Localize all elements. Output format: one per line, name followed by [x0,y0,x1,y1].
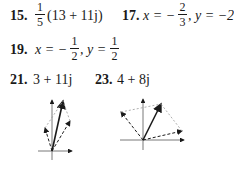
vector-diagram-23 [0,0,234,175]
